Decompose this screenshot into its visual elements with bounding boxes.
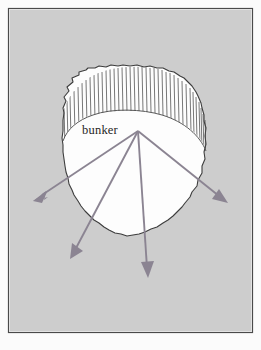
bunker-diagram-svg: bunker	[0, 0, 261, 350]
figure-container: bunker	[0, 0, 261, 350]
bunker-label: bunker	[82, 123, 119, 137]
